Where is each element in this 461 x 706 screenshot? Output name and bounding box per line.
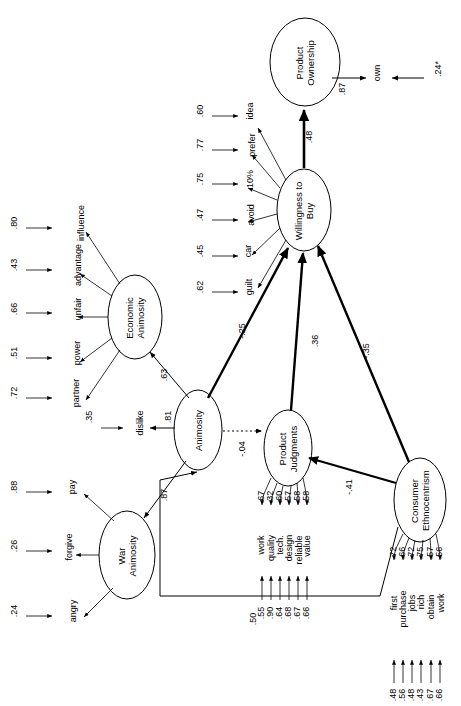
indicator-pj-work: work — [256, 528, 266, 562]
coef-wtb-ownership: .48 — [304, 125, 314, 149]
indicator-10pct: 10% — [245, 161, 255, 197]
path-wtb-guilt — [258, 240, 286, 288]
error-guilt: .62 — [195, 273, 205, 301]
indicator-partner: partner — [71, 369, 81, 417]
indicator-ce-obtain: obtain — [426, 585, 436, 629]
error-influence: .80 — [9, 209, 19, 237]
coef-ce-work: .56 — [434, 540, 444, 566]
path-war-pay — [84, 494, 114, 521]
indicator-pay: pay — [67, 470, 77, 504]
error-pay: .88 — [9, 473, 19, 501]
indicator-guilt: guilt — [244, 270, 254, 304]
error-angry: .24 — [9, 597, 19, 625]
path-animosity-econ — [150, 352, 189, 398]
label-construct-product-judgments: ProductJudgments — [277, 419, 299, 479]
coef-pj-value: .58 — [301, 484, 311, 510]
indicator-angry: angry — [68, 590, 78, 632]
coef-ce-pj: -.41 — [344, 473, 354, 501]
coef-ownership-own: .87 — [337, 77, 347, 101]
error-power: .51 — [9, 339, 19, 367]
indicator-avoid: avoid — [246, 196, 256, 234]
path-pj-wtb — [291, 253, 303, 410]
path-econ-partner — [86, 350, 120, 400]
coef-animosity-war: .87 — [159, 483, 169, 507]
coef-ce-rich: .75 — [415, 540, 425, 566]
error-ce-rich: .43 — [415, 682, 425, 706]
coef-animosity-econ: .63 — [159, 363, 169, 387]
error-partner: .72 — [9, 379, 19, 407]
indicator-car: car — [243, 235, 253, 267]
indicator-advantage: advantage — [73, 237, 83, 293]
indicator-dislike: dislike — [135, 401, 145, 445]
error-10pct: .75 — [195, 165, 205, 193]
error-forgive: .26 — [9, 532, 19, 560]
error-avoid: .47 — [195, 201, 205, 229]
path-wtb-idea — [258, 128, 286, 180]
coef-animosity-pj: -.04 — [237, 435, 247, 463]
path-war-angry — [84, 588, 113, 617]
label-construct-product-ownership: ProductOwnership — [294, 33, 316, 93]
error-dislike: .35 — [84, 403, 94, 431]
label-construct-animosity: Animosity — [193, 401, 204, 461]
coef-animosity-wtb: -.25 — [237, 317, 247, 345]
indicator-own: own — [372, 58, 382, 88]
indicator-idea: idea — [245, 93, 255, 129]
indicator-pj-value: value — [302, 526, 312, 566]
indicator-pj-design: design — [284, 526, 294, 570]
indicator-ce-work: work — [436, 586, 446, 620]
path-econ-advantage — [80, 274, 112, 296]
label-construct-willingness-to-buy: Willingness toBuy — [293, 181, 315, 241]
error-idea: .60 — [195, 97, 205, 125]
label-construct-consumer-ethnocentrism: ConsumerEthnocentrism — [409, 471, 431, 531]
indicator-prefer: prefer — [247, 125, 257, 165]
coef-pj-wtb: .36 — [310, 328, 320, 354]
label-construct-economic-animosity: EconomicAnimosity — [124, 288, 146, 348]
error-own: .24* — [433, 54, 443, 84]
error-pj-value: .66 — [301, 600, 311, 626]
path-econ-power — [80, 338, 112, 362]
error-prefer: .77 — [195, 131, 205, 159]
coef-animosity-dislike: .81 — [163, 405, 173, 429]
coef-ce-wtb: -.35 — [361, 337, 371, 365]
error-car: .45 — [195, 237, 205, 265]
indicator-ce-rich: rich — [416, 587, 426, 617]
indicator-forgive: forgive — [64, 524, 74, 570]
label-construct-war-animosity: WarAnimosity — [116, 526, 138, 586]
error-unfair: .66 — [9, 295, 19, 323]
indicator-unfair: unfair — [73, 287, 83, 331]
path-econ-influence — [86, 232, 120, 284]
error-ce-work: .66 — [434, 682, 444, 706]
path-wtb-car — [252, 228, 280, 255]
error-advantage: .43 — [9, 251, 19, 279]
sem-path-diagram: ProductOwnership Willingness toBuy Econo… — [0, 0, 461, 706]
